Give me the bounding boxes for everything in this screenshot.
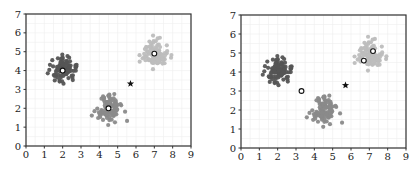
- centroid-marker: [106, 106, 111, 111]
- data-point: [158, 60, 162, 64]
- y-tick-label: 6: [230, 29, 236, 40]
- y-tick-label: 5: [15, 46, 21, 57]
- data-point: [110, 118, 114, 122]
- data-point: [106, 94, 110, 98]
- x-axis: 0123456789: [238, 148, 409, 162]
- data-point: [50, 58, 54, 62]
- data-point: [148, 45, 152, 49]
- data-point: [384, 54, 388, 58]
- data-point: [169, 53, 173, 57]
- data-point: [275, 54, 279, 58]
- data-point: [281, 70, 285, 74]
- data-point: [277, 68, 281, 72]
- data-point: [64, 60, 68, 64]
- data-point: [320, 110, 324, 114]
- scatter-plot-right-canvas: 012345678901234567: [210, 0, 419, 170]
- data-point: [287, 70, 291, 74]
- data-point: [363, 50, 367, 54]
- data-point: [273, 62, 277, 66]
- scatter-plot-right: 012345678901234567: [210, 0, 419, 170]
- data-point: [363, 46, 367, 50]
- data-point: [92, 109, 96, 113]
- data-point: [312, 112, 316, 116]
- data-point: [106, 123, 110, 127]
- data-point: [102, 95, 106, 99]
- data-point: [112, 92, 116, 96]
- data-point: [52, 73, 56, 77]
- data-point: [58, 60, 62, 64]
- x-tick-label: 4: [311, 151, 317, 162]
- data-point: [112, 96, 116, 100]
- centroid-marker: [299, 89, 304, 94]
- data-point: [276, 83, 280, 87]
- centroid-marker: [361, 58, 366, 63]
- data-point: [61, 82, 65, 86]
- data-point: [152, 60, 156, 64]
- y-tick-label: 7: [15, 9, 21, 20]
- data-point: [118, 102, 122, 106]
- data-point: [318, 105, 322, 109]
- y-tick-label: 4: [230, 67, 236, 78]
- y-tick-label: 2: [15, 103, 21, 114]
- centroid-marker: [371, 49, 376, 54]
- y-tick-label: 0: [15, 141, 21, 152]
- data-point: [285, 77, 289, 81]
- centroid-marker: [152, 51, 157, 56]
- data-point: [333, 104, 337, 108]
- y-tick-label: 0: [230, 143, 236, 154]
- data-point: [380, 50, 384, 54]
- scatter-plot-left-canvas: 012345678901234567: [0, 0, 210, 170]
- data-point: [366, 35, 370, 39]
- data-point: [147, 40, 151, 44]
- data-point: [321, 95, 325, 99]
- data-point: [328, 104, 332, 108]
- data-point: [317, 97, 321, 101]
- data-point: [162, 61, 166, 65]
- star-marker-icon: [127, 80, 134, 87]
- x-tick-label: 1: [41, 149, 47, 160]
- y-tick-label: 3: [15, 84, 21, 95]
- data-point: [113, 120, 117, 124]
- centroid-marker: [60, 68, 65, 73]
- data-point: [280, 55, 284, 59]
- series-cluster-2: [305, 94, 344, 129]
- data-point: [352, 54, 356, 58]
- data-point: [46, 71, 50, 75]
- series-cluster-3: [352, 35, 388, 73]
- y-tick-label: 1: [230, 124, 236, 135]
- data-point: [97, 110, 101, 114]
- y-axis: 01234567: [15, 9, 26, 152]
- data-point: [265, 59, 269, 63]
- data-point: [66, 68, 70, 72]
- data-point: [327, 98, 331, 102]
- data-point: [373, 61, 377, 65]
- data-point: [70, 76, 74, 80]
- data-point: [154, 47, 158, 51]
- y-axis: 01234567: [230, 10, 241, 154]
- data-point: [158, 36, 162, 40]
- data-point: [328, 111, 332, 115]
- x-tick-label: 7: [151, 149, 157, 160]
- data-point: [66, 76, 70, 80]
- data-point: [261, 73, 265, 77]
- data-point: [138, 60, 142, 64]
- data-point: [338, 111, 342, 115]
- data-point: [263, 64, 267, 68]
- data-point: [272, 69, 276, 73]
- x-tick-label: 3: [78, 149, 84, 160]
- y-tick-label: 4: [15, 65, 21, 76]
- data-point: [327, 94, 331, 98]
- y-tick-label: 5: [230, 48, 236, 59]
- data-point: [367, 62, 371, 66]
- data-point: [48, 63, 52, 67]
- data-point: [373, 37, 377, 41]
- data-point: [267, 74, 271, 78]
- data-point: [151, 67, 155, 71]
- data-point: [73, 63, 77, 67]
- x-tick-label: 5: [114, 149, 120, 160]
- data-point: [90, 113, 94, 117]
- data-point: [324, 105, 328, 109]
- y-tick-label: 7: [230, 10, 236, 21]
- y-tick-label: 1: [15, 122, 21, 133]
- x-tick-label: 9: [188, 149, 194, 160]
